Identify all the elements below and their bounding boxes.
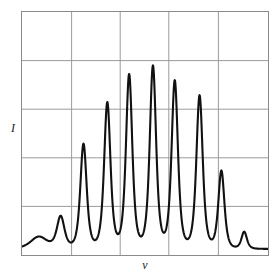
spectrum-figure: I ν: [0, 0, 280, 280]
grid-lines: [22, 12, 268, 255]
x-axis-label: ν: [131, 259, 159, 271]
y-axis-label: I: [6, 122, 20, 134]
plot-area: [21, 11, 269, 256]
